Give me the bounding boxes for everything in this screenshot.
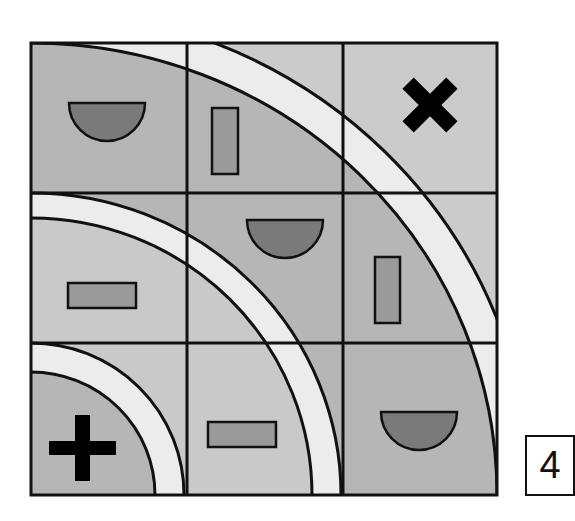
figure-number: 4 [539, 444, 560, 487]
horizontal-rectangle-icon [208, 422, 276, 447]
vertical-rectangle-icon [375, 257, 400, 323]
figure-number-label: 4 [525, 435, 575, 496]
horizontal-rectangle-icon [68, 283, 136, 308]
vertical-rectangle-icon [212, 108, 238, 174]
